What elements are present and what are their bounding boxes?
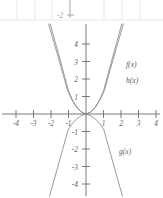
y-tick-label: -4: [72, 180, 78, 189]
x-tick-label: 1: [102, 119, 106, 128]
strip-tick-label: -2: [57, 11, 63, 20]
x-tick-label: -1: [65, 119, 71, 128]
y-tick-label: -1: [72, 128, 78, 137]
y-tick-label: 2: [74, 75, 78, 84]
x-tick-label: 3: [136, 119, 141, 128]
curve-label-f: f(x): [126, 60, 137, 69]
curve-label-g: g(x): [119, 147, 132, 156]
x-tick-label: -3: [30, 119, 36, 128]
x-tick-label: -2: [48, 119, 54, 128]
y-tick-label: 1: [74, 93, 78, 102]
x-tick-label: -4: [13, 119, 19, 128]
x-tick-label: 2: [119, 119, 123, 128]
graph-figure: -2: [0, 0, 163, 198]
y-tick-label: 4: [74, 40, 78, 49]
y-tick-label: -3: [72, 163, 78, 172]
figure-background: [0, 0, 163, 198]
curve-label-h: h(x): [126, 76, 139, 85]
y-tick-label: 3: [73, 58, 78, 67]
x-tick-label: 4: [154, 119, 158, 128]
y-tick-label: -2: [72, 145, 78, 154]
